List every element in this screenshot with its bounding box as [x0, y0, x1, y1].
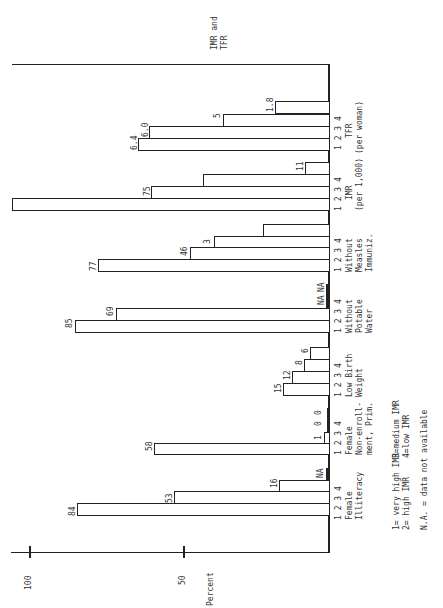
value-water-4: NA — [317, 282, 326, 292]
value-tfr-3: 5 — [213, 113, 222, 118]
label-nonenroll-1: Female — [345, 426, 354, 455]
bar-lbw-3 — [304, 359, 329, 372]
label-lbw-2: Weight — [355, 368, 364, 397]
bar-water-3-na — [326, 296, 329, 308]
value-tfr-4: 1.8 — [266, 98, 275, 112]
label-nonenroll-2: Non-enroll- — [355, 402, 364, 455]
legend-2: 2= high IMR — [402, 477, 411, 530]
label-water-1: Without — [345, 299, 354, 333]
tick-100 — [29, 546, 31, 558]
value-water-1: 85 — [65, 318, 74, 328]
value-nonenroll-1: 58 — [145, 441, 154, 451]
legend-na: N.A. = data not available — [420, 410, 429, 530]
chart-stage: 100 50 Percent IMR and TFR 84 53 16 NA 5… — [0, 0, 443, 608]
right-title-line1: IMR and — [210, 16, 219, 50]
label-imr-1: IMR — [345, 186, 354, 200]
bar-water-4-na — [326, 284, 329, 296]
label-water-2: Potable — [355, 299, 364, 333]
bar-nonenroll-4 — [327, 408, 329, 420]
value-tfr-2: 6.0 — [141, 123, 150, 137]
bar-tfr-1 — [138, 138, 329, 151]
label-measles-2: Measles — [355, 238, 364, 272]
value-measles-1: 77 — [89, 261, 98, 271]
value-nonenroll-2: 1 — [314, 435, 323, 440]
bar-tfr-3 — [223, 114, 329, 127]
bar-measles-2 — [190, 247, 329, 260]
value-imr-4: 11 — [296, 161, 305, 171]
bar-imr-1 — [12, 198, 329, 211]
bar-measles-4 — [263, 224, 329, 237]
nums-imr: 1 2 3 4 — [334, 177, 343, 211]
value-lbw-2: 12 — [283, 370, 292, 380]
nums-water: 1 2 3 4 — [334, 299, 343, 333]
label-water-3: Water — [365, 309, 374, 333]
bar-water-2 — [116, 308, 329, 321]
label-measles-1: Without — [345, 238, 354, 272]
bar-imr-3 — [203, 174, 329, 187]
nums-tfr: 1 2 3 4 — [334, 116, 343, 150]
value-nonenroll-3: 0 — [314, 421, 323, 426]
nums-measles: 1 2 3 4 — [334, 238, 343, 272]
legend-4: 4=low IMR — [402, 415, 411, 458]
bar-imr-2 — [151, 186, 329, 199]
value-imr-2: 75 — [143, 186, 152, 196]
bar-lbw-2 — [292, 371, 329, 384]
tick-50 — [183, 546, 185, 558]
tick-label-50: 50 — [178, 575, 187, 585]
value-illiteracy-3: 16 — [270, 478, 279, 488]
label-tfr-2: (per woman) — [355, 101, 364, 154]
tick-label-100: 100 — [24, 576, 33, 590]
bar-tfr-2 — [149, 126, 329, 139]
label-nonenroll-3: ment, Prim. — [365, 402, 374, 455]
bar-measles-1 — [98, 259, 329, 272]
value-illiteracy-1: 84 — [68, 506, 77, 516]
bar-measles-3 — [214, 236, 329, 248]
value-lbw-3: 8 — [295, 360, 304, 365]
value-lbw-4: 6 — [301, 348, 310, 353]
label-measles-3: Immuniz. — [365, 233, 374, 272]
frame-top-line — [12, 64, 329, 65]
value-tfr-1: 6.4 — [130, 136, 139, 150]
percent-axis — [11, 552, 329, 553]
nums-lbw: 1 2 3 4 — [334, 363, 343, 397]
value-measles-3: 3 — [203, 239, 212, 244]
bar-nonenroll-1 — [154, 443, 329, 455]
label-lbw-1: Low Birth — [345, 354, 354, 397]
label-illiteracy-1: Female — [345, 491, 354, 520]
value-nonenroll-4: 0 — [314, 410, 323, 415]
nums-illiteracy: 1 2 3 4 — [334, 486, 343, 520]
label-illiteracy-2: Illiteracy — [355, 472, 364, 520]
label-tfr-1: TFR — [345, 124, 354, 138]
nums-nonenroll: 1 2 3 4 — [334, 421, 343, 455]
value-illiteracy-2: 53 — [165, 493, 174, 503]
legend-1: 1= very high IMR — [392, 453, 401, 530]
bar-water-1 — [75, 320, 329, 333]
value-lbw-1: 15 — [274, 383, 283, 393]
bar-lbw-4 — [310, 347, 329, 360]
legend-3: 3=medium IMR — [392, 400, 401, 458]
bar-lbw-1 — [283, 383, 329, 396]
value-measles-2: 46 — [180, 246, 189, 256]
bar-illiteracy-1 — [77, 503, 329, 516]
label-imr-2: (per 1,000) — [355, 158, 364, 211]
bar-tfr-4 — [275, 101, 329, 114]
value-illiteracy-4: NA — [316, 468, 325, 478]
bar-nonenroll-2 — [324, 432, 329, 444]
axis-label-percent: Percent — [206, 572, 215, 606]
bar-imr-4 — [305, 162, 329, 175]
bar-illiteracy-4-na — [326, 468, 329, 480]
value-water-2: 69 — [106, 306, 115, 316]
bar-nonenroll-3 — [327, 420, 329, 432]
bar-illiteracy-3 — [279, 480, 329, 492]
right-title-line2: TFR — [220, 36, 229, 50]
value-water-3: NA — [317, 295, 326, 305]
bar-illiteracy-2 — [174, 491, 329, 504]
